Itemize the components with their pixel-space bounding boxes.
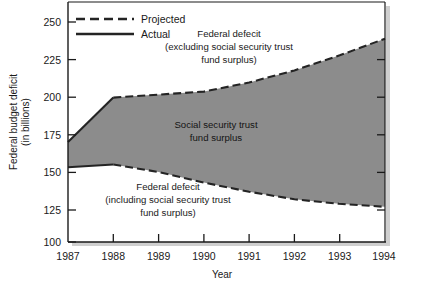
upper-area-label-line2: (excluding social security trust [165,41,293,52]
y-tick-label-3: 175 [43,129,61,141]
upper-area-label-line1: Federal defecit [197,28,261,39]
y-tick-label-6: 100 [43,236,61,248]
y-tick-label-4: 150 [43,166,61,178]
x-tick-label-7: 1994 [372,250,396,262]
x-tick-label-0: 1987 [56,250,80,262]
y-axis-title-line1: Federal budget deficit [8,74,19,170]
x-tick-label-3: 1990 [192,250,216,262]
lower-area-label-line2: (including social security trust [105,194,231,205]
x-tick-label-1: 1988 [102,250,126,262]
y-axis-title: Federal budget deficit (in billions) [8,74,31,170]
middle-area-label-line2: fund surplus [190,132,242,143]
middle-area-label-line1: Social security trust [174,119,258,130]
x-axis-title: Year [212,269,233,280]
lower-area-label-line1: Federal defecit [136,181,200,192]
x-tick-label-4: 1991 [237,250,261,262]
legend-label-actual: Actual [141,28,170,40]
y-tick-label-2: 200 [43,91,61,103]
y-tick-label-0: 250 [43,16,61,28]
chart-canvas: 250 225 200 175 150 125 100 1987 1988 19… [0,0,421,283]
x-tick-label-6: 1993 [328,250,352,262]
y-axis-title-line2: (in billions) [20,98,31,146]
legend-label-projected: Projected [141,13,186,25]
x-tick-label-5: 1992 [283,250,307,262]
upper-area-label-line3: fund surplus) [201,54,256,65]
x-tick-label-2: 1989 [147,250,171,262]
chart-figure: 250 225 200 175 150 125 100 1987 1988 19… [0,0,421,283]
y-tick-label-1: 225 [43,54,61,66]
lower-area-label-line3: fund surplus) [140,207,195,218]
y-tick-label-5: 125 [43,204,61,216]
